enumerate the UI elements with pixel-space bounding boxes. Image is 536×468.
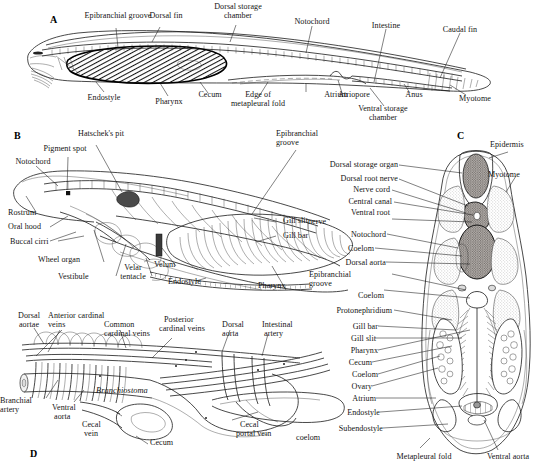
label-pigment-spot: Pigment spot	[28, 144, 102, 153]
label-myotome-a: Myotome	[444, 94, 506, 103]
label-anus-a: Anus	[392, 90, 436, 99]
label-notochord-a: Notochord	[276, 17, 348, 26]
label-caudal-fin-a: Caudal fin	[424, 25, 496, 34]
label-branchial-artery-line2: artery	[0, 405, 48, 414]
label-coelom-c-2: Coelom	[300, 291, 384, 300]
label-epibranchial-groove-c-line1: Epibranchial	[309, 270, 379, 279]
label-branchiostoma: Branchiostoma	[96, 386, 180, 395]
label-ventral-aorta-c: Ventral aorta	[472, 452, 536, 461]
label-pharynx-b: Pharynx	[258, 281, 312, 290]
panel-a-drawing	[28, 31, 491, 92]
label-epibranchial-groove-c-line2: groove	[309, 279, 379, 288]
label-anterior-cardinal-veins-line2: veins	[48, 320, 108, 329]
label-common-cardinal-veins-line1: Common	[104, 320, 164, 329]
label-coelom-c-1: Coelom	[300, 244, 374, 253]
label-branchial-artery-line1: Branchial	[0, 396, 56, 405]
label-cecal-portal-vein-line2: portal vein	[236, 429, 302, 438]
label-dorsal-storage-organ: Dorsal storage organ	[300, 160, 398, 169]
label-intestinal-artery-line2: artery	[264, 329, 312, 338]
label-edge-metapleural-fold-line2: metapleural fold	[212, 99, 304, 108]
label-dorsal-aortae-line2: aortae	[4, 320, 54, 329]
label-endostyle-c: Endostyle	[300, 408, 380, 417]
label-ventral-root-nerve-line1: Ventral root	[300, 208, 390, 217]
label-epibranchial-groove-b-line1: Epibranchial	[276, 129, 346, 138]
label-rostrum: Rostrum	[8, 208, 62, 217]
label-endostyle-a: Endostyle	[70, 93, 138, 102]
label-wheel-organ: Wheel organ	[38, 255, 114, 264]
label-subendostyle-coelom-line1: Subendostyle	[296, 424, 383, 433]
panel-letter-b: B	[14, 130, 21, 141]
label-ventral-aorta-d-line1: Ventral	[52, 403, 100, 412]
label-buccal-cirri: Buccal cirri	[10, 237, 76, 246]
label-dorsal-aortae-line1: Dorsal	[4, 311, 54, 320]
label-cecal-vein-line2: vein	[84, 429, 122, 438]
label-hatscheks-pit: Hatschek's pit	[62, 129, 140, 138]
label-coelom-c-3: Coelom	[300, 370, 378, 379]
label-velar-tentacle-line1: Velar	[110, 263, 156, 272]
label-endostyle-b: Endostyle	[168, 277, 228, 286]
label-myotome-c: Myotome	[488, 170, 536, 179]
label-cecal-vein-line1: Cecal	[82, 420, 120, 429]
label-pharynx-c: Pharynx	[300, 346, 378, 355]
label-metapleural-fold: Metapleural fold	[378, 452, 470, 461]
label-edge-metapleural-fold-line1: Edge of	[228, 90, 288, 99]
label-posterior-cardinal-veins-line1: Posterior	[164, 315, 224, 324]
label-epidermis: Epidermis	[490, 140, 536, 149]
label-protonephridium: Protonephridium	[296, 306, 392, 315]
label-cecum-d: Cecum	[150, 438, 198, 447]
label-atriopore-a: Atriopore	[322, 90, 386, 99]
label-notochord-c: Notochord	[300, 230, 386, 239]
label-oral-hood: Oral hood	[8, 222, 68, 231]
label-dorsal-aorta-c: Dorsal aorta	[300, 258, 386, 267]
label-velar-tentacle-line2: tentacle	[108, 272, 158, 281]
label-subendostyle-coelom-line2: coelom	[296, 433, 356, 442]
label-dorsal-storage-chamber-a-line2: chamber	[196, 11, 280, 20]
label-notochord-b: Notochord	[0, 157, 66, 166]
label-cecum-c: Cecum	[300, 358, 372, 367]
label-ventral-root-nerve-line2: nerve	[308, 217, 358, 226]
label-intestine-a: Intestine	[354, 21, 418, 30]
label-cecal-portal-vein-line1: Cecal	[240, 420, 280, 429]
label-ventral-storage-chamber-line1: Ventral storage	[338, 104, 428, 113]
label-central-canal: Central canal	[300, 197, 392, 206]
label-intestinal-artery-line1: Intestinal	[262, 320, 316, 329]
panel-letter-d: D	[30, 448, 37, 459]
label-dorsal-storage-chamber-a-line1: Dorsal storage	[196, 2, 280, 11]
label-nerve-cord: Nerve cord	[300, 185, 390, 194]
label-cecum-a: Cecum	[186, 90, 234, 99]
label-dorsal-root-nerve: Dorsal root nerve	[300, 174, 398, 183]
label-dorsal-fin-a: Dorsal fin	[130, 11, 202, 20]
label-epibranchial-groove-b-line2: groove	[276, 138, 346, 147]
panel-letter-c: C	[457, 130, 464, 141]
label-ovary: Ovary	[300, 382, 372, 391]
label-ventral-storage-chamber-line2: chamber	[338, 113, 428, 122]
label-anterior-cardinal-veins-line1: Anterior cardinal	[48, 311, 144, 320]
anatomy-figure	[0, 0, 536, 468]
panel-c-drawing	[422, 151, 530, 454]
label-velum: Velum	[154, 260, 200, 269]
label-dorsal-aorta-d-line2: aorta	[222, 329, 270, 338]
label-atrium-c: Atrium	[300, 394, 376, 403]
